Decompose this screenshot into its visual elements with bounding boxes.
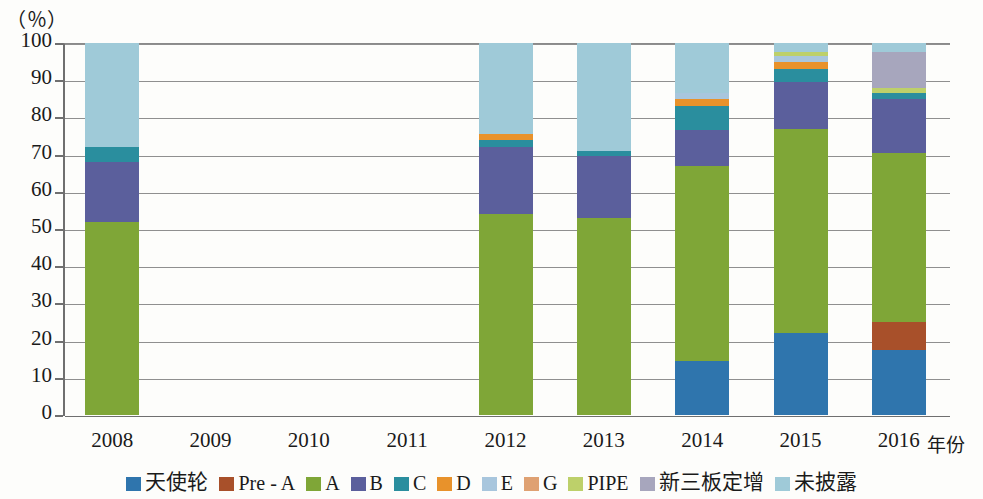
y-axis-tick-mark [55, 229, 63, 231]
legend-label: B [370, 473, 383, 495]
legend-label: D [456, 473, 470, 495]
legend-item-新三板定增[interactable]: 新三板定增 [640, 472, 764, 495]
y-axis-tick-label: 20 [0, 326, 52, 351]
y-axis-tick-mark [55, 303, 63, 305]
legend-item-D[interactable]: D [437, 473, 470, 495]
bar-2015 [774, 43, 828, 415]
x-axis-tick-label-2011: 2011 [362, 428, 452, 453]
bar-segment-2013-C [577, 151, 631, 157]
bar-2010 [282, 43, 336, 415]
bar-segment-2015-A [774, 129, 828, 334]
chart-legend: 天使轮Pre - AABCDEGPIPE新三板定增未披露 [0, 472, 983, 495]
y-axis-tick-label: 70 [0, 140, 52, 165]
y-axis-tick-label: 50 [0, 214, 52, 239]
bar-2013 [577, 43, 631, 415]
bar-2009 [184, 43, 238, 415]
legend-label: A [325, 473, 339, 495]
bar-segment-2008-C [85, 147, 139, 162]
legend-swatch-icon [437, 477, 452, 491]
legend-swatch-icon [126, 477, 141, 491]
legend-item-C[interactable]: C [394, 473, 426, 495]
bar-segment-2014-E [675, 93, 729, 99]
bar-segment-2013-B [577, 156, 631, 217]
legend-item-PIPE[interactable]: PIPE [568, 473, 628, 495]
legend-swatch-icon [775, 477, 790, 491]
legend-item-Pre - A[interactable]: Pre - A [219, 473, 295, 495]
x-axis-tick-label-2013: 2013 [559, 428, 649, 453]
gridline [65, 416, 950, 417]
y-axis-tick-label: 40 [0, 251, 52, 276]
legend-swatch-icon [351, 477, 366, 491]
bar-segment-2015-D [774, 62, 828, 69]
y-axis-tick-mark [55, 192, 63, 194]
bar-2016 [872, 43, 926, 415]
y-axis-tick-mark [55, 155, 63, 157]
legend-swatch-icon [394, 477, 409, 491]
bar-segment-2008-未披露 [85, 43, 139, 147]
legend-swatch-icon [482, 477, 497, 491]
y-axis-tick-label: 80 [0, 102, 52, 127]
bar-segment-2012-A [479, 214, 533, 415]
bar-segment-2008-A [85, 222, 139, 415]
y-axis-tick-mark [55, 341, 63, 343]
bar-2011 [380, 43, 434, 415]
y-axis-tick-mark [55, 415, 63, 417]
legend-swatch-icon [306, 477, 321, 491]
bar-segment-2016-A [872, 153, 926, 322]
bar-2008 [85, 43, 139, 415]
legend-label: E [501, 473, 513, 495]
x-axis-tick-label-2010: 2010 [264, 428, 354, 453]
legend-label: C [413, 473, 426, 495]
bar-segment-2014-D [675, 99, 729, 106]
bar-segment-2015-未披露 [774, 43, 828, 52]
bar-segment-2014-天使轮 [675, 361, 729, 415]
x-axis-tick-label-2009: 2009 [166, 428, 256, 453]
x-axis-tick-label-2014: 2014 [657, 428, 747, 453]
legend-label: 天使轮 [145, 472, 208, 495]
bar-2014 [675, 43, 729, 415]
y-axis-tick-mark [55, 266, 63, 268]
y-axis-tick-mark [55, 80, 63, 82]
legend-label: 新三板定增 [659, 472, 764, 495]
bar-segment-2014-A [675, 166, 729, 361]
bar-2012 [479, 43, 533, 415]
legend-label: G [543, 473, 557, 495]
bar-segment-2016-PIPE [872, 88, 926, 94]
x-axis-tick-label-2012: 2012 [461, 428, 551, 453]
legend-item-B[interactable]: B [351, 473, 383, 495]
legend-swatch-icon [219, 477, 234, 491]
bar-segment-2015-B [774, 82, 828, 129]
stacked-bar-chart: （％） 0102030405060708090100 2008200920102… [0, 0, 983, 499]
bar-segment-2012-B [479, 147, 533, 214]
y-axis-tick-label: 30 [0, 288, 52, 313]
bar-segment-2015-E [774, 56, 828, 62]
legend-label: Pre - A [238, 473, 295, 495]
legend-item-G[interactable]: G [524, 473, 557, 495]
legend-item-E[interactable]: E [482, 473, 513, 495]
legend-item-A[interactable]: A [306, 473, 339, 495]
legend-item-天使轮[interactable]: 天使轮 [126, 472, 208, 495]
legend-swatch-icon [568, 477, 583, 491]
bar-segment-2014-C [675, 106, 729, 130]
y-axis-tick-label: 10 [0, 363, 52, 388]
bar-segment-2008-B [85, 162, 139, 222]
x-axis-tick-label-2008: 2008 [67, 428, 157, 453]
bar-segment-2013-未披露 [577, 43, 631, 151]
bar-segment-2014-未披露 [675, 43, 729, 93]
bar-segment-2012-未披露 [479, 43, 533, 134]
y-axis-tick-mark [55, 43, 63, 45]
bar-segment-2012-C [479, 140, 533, 147]
bar-segment-2016-B [872, 99, 926, 153]
y-axis-tick-mark [55, 378, 63, 380]
legend-swatch-icon [524, 477, 539, 491]
bar-segment-2013-A [577, 218, 631, 415]
legend-item-未披露[interactable]: 未披露 [775, 472, 857, 495]
legend-label: 未披露 [794, 472, 857, 495]
x-axis-title: 年份 [927, 430, 965, 457]
bar-segment-2016-天使轮 [872, 350, 926, 415]
bar-segment-2015-天使轮 [774, 333, 828, 415]
y-axis-tick-label: 0 [0, 400, 52, 425]
legend-label: PIPE [587, 473, 628, 495]
bar-segment-2014-B [675, 130, 729, 165]
bar-segment-2016-新三板定增 [872, 52, 926, 87]
